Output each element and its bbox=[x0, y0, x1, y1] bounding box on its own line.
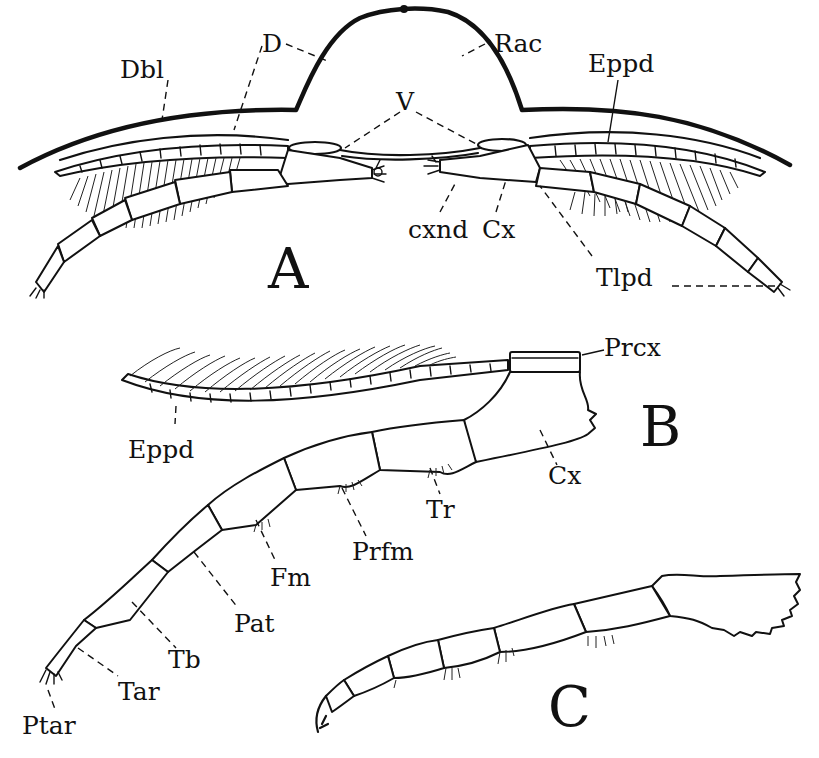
label-exopodite-b: Eppd bbox=[128, 435, 194, 464]
label-femur: Fm bbox=[270, 563, 311, 592]
label-ventral: V bbox=[395, 87, 415, 116]
femur bbox=[208, 458, 296, 530]
label-telopodite: Tlpd bbox=[596, 263, 653, 292]
panel-c: C bbox=[316, 574, 800, 739]
label-exopodite-a: Eppd bbox=[588, 49, 654, 78]
label-prefemur: Prfm bbox=[352, 537, 414, 566]
telopodite-left bbox=[30, 150, 386, 298]
coxa-b bbox=[464, 372, 596, 462]
panel-label-a: A bbox=[267, 236, 309, 301]
segment-c-1 bbox=[574, 586, 670, 632]
label-precoxa: Prcx bbox=[604, 333, 661, 362]
label-dorsal: D bbox=[262, 29, 282, 58]
segment-c-3 bbox=[438, 628, 500, 668]
patella bbox=[152, 505, 222, 572]
segment-c-2 bbox=[494, 604, 586, 652]
label-coxal-endite: cxnd bbox=[408, 215, 468, 244]
anatomical-figure: Dbl D Rac Eppd V cxnd Cx Tlpd A bbox=[0, 0, 819, 758]
panel-a: Dbl D Rac Eppd V cxnd Cx Tlpd A bbox=[20, 5, 790, 301]
label-doublure: Dbl bbox=[120, 55, 164, 84]
claw-c bbox=[316, 696, 328, 732]
label-coxa-a: Cx bbox=[482, 215, 515, 244]
panel-label-b: B bbox=[640, 394, 681, 459]
coxa-c bbox=[652, 574, 800, 636]
panel-label-c: C bbox=[548, 674, 591, 739]
precoxa bbox=[510, 352, 580, 372]
segment-c-5 bbox=[344, 656, 394, 696]
trochanter bbox=[372, 420, 476, 474]
exopodite-b bbox=[122, 345, 508, 402]
label-rachis: Rac bbox=[494, 29, 542, 58]
segment-c-4 bbox=[388, 640, 444, 678]
label-patella: Pat bbox=[234, 609, 275, 638]
label-tibia: Tb bbox=[168, 645, 201, 674]
prefemur bbox=[284, 432, 380, 490]
axial-node bbox=[400, 5, 408, 13]
label-coxa-b: Cx bbox=[548, 461, 581, 490]
label-pretarsus: Ptar bbox=[22, 711, 76, 740]
label-tarsus: Tar bbox=[118, 677, 160, 706]
tarsus bbox=[46, 620, 96, 676]
label-trochanter: Tr bbox=[426, 495, 455, 524]
tibia bbox=[84, 560, 168, 628]
